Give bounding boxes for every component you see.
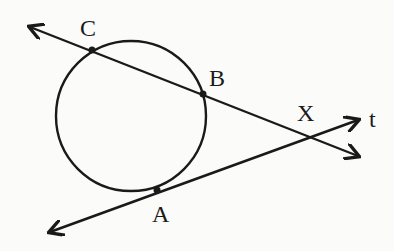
label-t: t (369, 106, 376, 132)
label-b: B (209, 65, 225, 91)
label-x: X (297, 100, 314, 126)
label-c: C (80, 15, 96, 41)
circle (56, 41, 206, 191)
point-c-dot (89, 47, 96, 54)
label-a: A (152, 201, 170, 227)
point-a-dot (154, 187, 161, 194)
geometry-diagram: C B A X t (0, 0, 394, 251)
point-b-dot (200, 91, 207, 98)
